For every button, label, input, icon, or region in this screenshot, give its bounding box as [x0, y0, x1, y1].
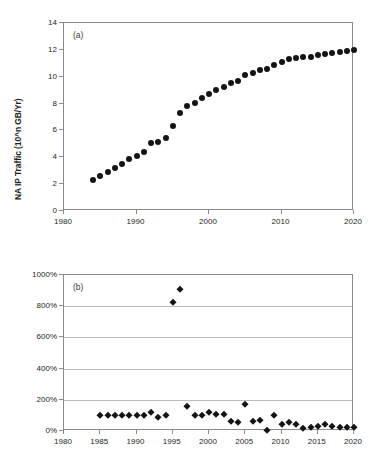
data-point — [170, 299, 176, 305]
x-axis-tick-label: 1985 — [90, 437, 108, 446]
data-point — [286, 419, 292, 425]
y-axis-tick — [59, 49, 63, 50]
data-point — [221, 84, 227, 90]
data-point — [315, 423, 321, 429]
figure-two-panel-ip-traffic: NA IP Traffic (10^n GB/Yr) (a) 024681012… — [0, 0, 381, 471]
data-point — [278, 421, 284, 427]
y-axis-tick — [59, 368, 63, 369]
data-point — [126, 412, 132, 418]
x-axis-tick — [136, 430, 137, 434]
data-point — [286, 56, 292, 62]
y-axis-tick-label: 12 — [17, 44, 57, 53]
data-point — [184, 103, 190, 109]
data-point — [177, 110, 183, 116]
data-point — [257, 67, 263, 73]
data-point — [104, 412, 110, 418]
data-point — [300, 54, 306, 60]
x-axis-tick-label: 2005 — [235, 437, 253, 446]
data-point — [315, 52, 321, 58]
y-axis-tick — [59, 399, 63, 400]
panel-a-na-ip-traffic: NA IP Traffic (10^n GB/Yr) (a) 024681012… — [0, 0, 381, 240]
data-point — [184, 403, 190, 409]
y-axis-tick-label: 0 — [17, 206, 57, 215]
panel-a-tag: (a) — [73, 30, 83, 40]
x-axis-tick — [317, 430, 318, 434]
data-point — [249, 418, 255, 424]
data-point — [126, 156, 132, 162]
data-point — [293, 420, 299, 426]
x-axis-tick — [136, 210, 137, 214]
x-axis-tick — [281, 430, 282, 434]
data-point — [228, 80, 234, 86]
y-axis-tick — [59, 129, 63, 130]
y-axis-tick-label: 200% — [17, 394, 57, 403]
x-axis-tick — [63, 430, 64, 434]
gridline — [64, 400, 352, 401]
y-axis-tick-label: 400% — [17, 363, 57, 372]
data-point — [279, 59, 285, 65]
data-point — [119, 161, 125, 167]
data-point — [228, 418, 234, 424]
data-point — [206, 409, 212, 415]
data-point — [351, 47, 357, 53]
panel-b-tag: (b) — [73, 282, 83, 292]
x-axis-tick-label: 1990 — [127, 437, 145, 446]
data-point — [112, 412, 118, 418]
data-point — [242, 401, 248, 407]
data-point — [155, 414, 161, 420]
y-axis-tick-label: 6 — [17, 125, 57, 134]
x-axis-tick — [208, 210, 209, 214]
y-axis-tick — [59, 305, 63, 306]
data-point — [329, 50, 335, 56]
x-axis-tick-label: 1995 — [163, 437, 181, 446]
y-axis-tick — [59, 336, 63, 337]
x-axis-tick — [63, 210, 64, 214]
data-point — [199, 95, 205, 101]
data-point — [97, 173, 103, 179]
y-axis-tick-label: 2 — [17, 179, 57, 188]
x-axis-tick — [353, 430, 354, 434]
y-axis-tick-label: 1000% — [17, 270, 57, 279]
data-point — [322, 421, 328, 427]
panel-b-plot-area: (b) — [63, 274, 353, 430]
x-axis-tick-label: 1990 — [127, 217, 145, 226]
x-axis-tick — [353, 210, 354, 214]
data-point — [170, 123, 176, 129]
x-axis-tick-label: 2010 — [272, 437, 290, 446]
data-point — [177, 286, 183, 292]
data-point — [213, 87, 219, 93]
data-point — [264, 66, 270, 72]
x-axis-tick-label: 1980 — [54, 437, 72, 446]
data-point — [213, 411, 219, 417]
y-axis-tick-label: 0% — [17, 426, 57, 435]
x-axis-tick — [208, 430, 209, 434]
data-point — [206, 91, 212, 97]
x-axis-tick-label: 2020 — [344, 217, 362, 226]
data-point — [220, 411, 226, 417]
data-point — [329, 423, 335, 429]
data-point — [163, 135, 169, 141]
data-point — [133, 412, 139, 418]
data-point — [344, 48, 350, 54]
data-point — [191, 411, 197, 417]
gridline — [64, 337, 352, 338]
data-point — [112, 165, 118, 171]
data-point — [308, 54, 314, 60]
data-point — [235, 78, 241, 84]
x-axis-tick — [244, 430, 245, 434]
data-point — [271, 411, 277, 417]
panel-a-plot-area: (a) — [63, 22, 353, 210]
data-point — [242, 72, 248, 78]
x-axis-tick-label: 1980 — [54, 217, 72, 226]
data-point — [192, 100, 198, 106]
data-point — [97, 412, 103, 418]
data-point — [336, 424, 342, 430]
y-axis-tick-label: 600% — [17, 332, 57, 341]
data-point — [322, 51, 328, 57]
data-point — [119, 412, 125, 418]
gridline — [64, 369, 352, 370]
y-axis-tick — [59, 76, 63, 77]
x-axis-tick — [99, 430, 100, 434]
x-axis-tick-label: 2000 — [199, 217, 217, 226]
x-axis-tick — [172, 430, 173, 434]
